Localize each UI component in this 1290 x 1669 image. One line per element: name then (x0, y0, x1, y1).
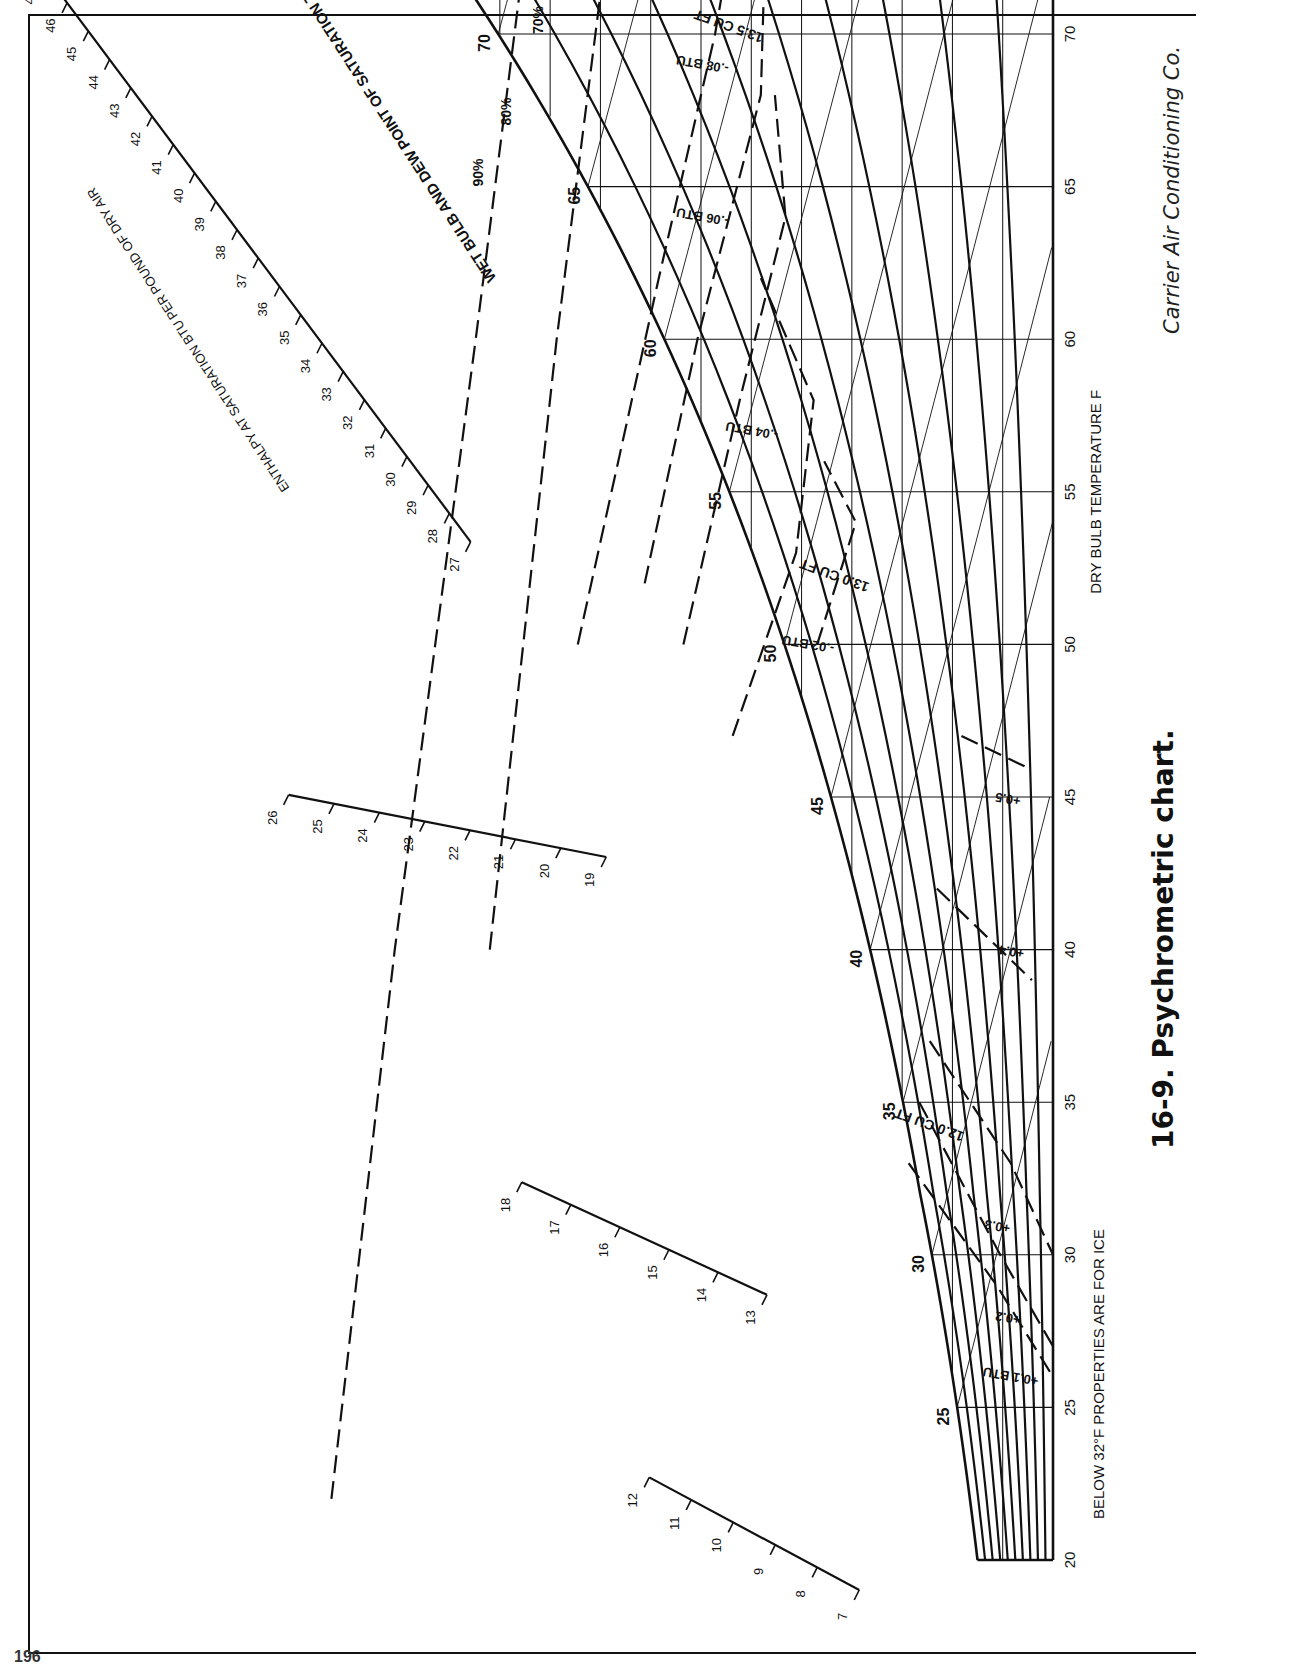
saturation-axis-label: WET BULB AND DEW POINT OF SATURATION TEM… (236, 0, 499, 286)
wet-bulb-line (588, 0, 950, 187)
enthalpy-scale-tick (126, 88, 131, 98)
enthalpy-scale-tick (713, 1272, 718, 1282)
enthalpy-deviation-label: +0.1 BTU (982, 1364, 1040, 1388)
enthalpy-scale-tick (338, 372, 343, 382)
enthalpy-deviation-curve (817, 461, 856, 644)
wet-bulb-line (831, 0, 1052, 797)
enthalpy-scale-label: 12 (625, 1493, 640, 1507)
page-number: 196 (14, 1648, 41, 1666)
saturation-temp-label: 55 (707, 492, 724, 510)
enthalpy-scale-tick (601, 857, 606, 867)
enthalpy-scale-label: 8 (793, 1590, 808, 1597)
dry-bulb-tick-label: 50 (1061, 636, 1078, 653)
wet-bulb-line (664, 0, 1047, 339)
enthalpy-deviation-curve (683, 95, 785, 644)
dry-bulb-tick-label: 25 (1061, 1399, 1078, 1416)
enthalpy-scale-label: 19 (582, 873, 597, 887)
enthalpy-scale-label: 20 (537, 864, 552, 878)
enthalpy-scale-label: 16 (596, 1243, 611, 1257)
enthalpy-scale-tick (105, 60, 110, 70)
enthalpy-scale-label: 36 (255, 302, 270, 316)
enthalpy-deviation-curve (961, 736, 1024, 767)
enthalpy-scale-label: 45 (64, 47, 79, 61)
rh-label: 70% (530, 5, 546, 34)
enthalpy-scale-label: 23 (401, 837, 416, 851)
enthalpy-scale-tick (232, 230, 237, 240)
chart-axes (0, 0, 1053, 1600)
dry-bulb-tick-label: 65 (1061, 178, 1078, 195)
saturation-temp-label: 65 (566, 187, 583, 205)
enthalpy-scale-label: 39 (192, 217, 207, 231)
dry-bulb-tick-label: 40 (1061, 941, 1078, 958)
enthalpy-scale (3, 0, 470, 542)
enthalpy-scale-label: 27 (447, 557, 462, 571)
enthalpy-scale-tick (686, 1500, 691, 1510)
enthalpy-deviation-label: +0.3 (983, 1217, 1011, 1236)
specific-volume-label: 12.0 CU FT (892, 1105, 966, 1145)
rh-curve (141, 0, 1007, 1560)
enthalpy-scale-label: 9 (751, 1568, 766, 1575)
enthalpy-scale-tick (62, 3, 67, 13)
enthalpy-scale-label: 42 (128, 132, 143, 146)
enthalpy-scale-label: 18 (498, 1198, 513, 1212)
enthalpy-scale-label: 10 (709, 1538, 724, 1552)
enthalpy-scale-label: 26 (265, 810, 280, 824)
enthalpy-scale-label: 15 (645, 1265, 660, 1279)
enthalpy-scale-tick (329, 804, 334, 814)
dry-bulb-tick-label: 45 (1061, 789, 1078, 806)
enthalpy-scale-tick (762, 1295, 767, 1305)
enthalpy-deviation-label: -.06 BTU (675, 205, 730, 229)
enthalpy-scale-label: 31 (362, 444, 377, 458)
dry-bulb-tick-label: 20 (1061, 1552, 1078, 1569)
rotated-chart-container: 2025303540455055606570758085909510010511… (0, 0, 1290, 1669)
rh-curve (159, 0, 993, 1560)
enthalpy-scale-tick (168, 145, 173, 155)
enthalpy-scale-tick (854, 1590, 859, 1600)
enthalpy-scale-label: 7 (835, 1613, 850, 1620)
enthalpy-scale-label: 40 (171, 189, 186, 203)
enthalpy-scale-label: 41 (149, 160, 164, 174)
enthalpy-scale-tick (510, 839, 515, 849)
enthalpy-scale-label: 29 (404, 501, 419, 515)
enthalpy-deviation-curve (937, 889, 1032, 981)
enthalpy-scale-tick (317, 343, 322, 353)
rh-label: 90% (470, 158, 486, 187)
enthalpy-scale-tick (465, 830, 470, 840)
rh-curve (467, 0, 1030, 1560)
saturation-temp-label: 50 (762, 645, 779, 663)
enthalpy-scale-tick (253, 258, 258, 268)
enthalpy-deviation-curve (490, 0, 705, 950)
enthalpy-scale-tick (359, 400, 364, 410)
rh-curve (166, 0, 985, 1560)
chart-grid (138, 0, 1053, 1560)
saturation-temp-label: 45 (809, 797, 826, 815)
enthalpy-scale-tick (374, 813, 379, 823)
saturation-temp-label: 60 (642, 339, 659, 357)
specific-volume-label: 13.5 CU FT (692, 6, 766, 46)
enthalpy-scale-label: 32 (340, 416, 355, 430)
enthalpy-scale-label: 35 (277, 330, 292, 344)
enthalpy-scale-tick (423, 485, 428, 495)
chart-curves (139, 0, 1053, 1560)
chart-labels: 2025303540455055606570758085909510010511… (0, 0, 1104, 1620)
enthalpy-scale-label: 38 (213, 245, 228, 259)
enthalpy-scale-tick (420, 822, 425, 832)
enthalpy-scale-tick (615, 1227, 620, 1237)
saturation-temp-label: 25 (935, 1408, 952, 1426)
enthalpy-scale-tick (83, 31, 88, 41)
enthalpy-scale-label: 24 (355, 828, 370, 842)
enthalpy-scale-tick (211, 201, 216, 211)
saturation-temp-label: 40 (848, 950, 865, 968)
rh-label: 80% (498, 97, 514, 126)
enthalpy-scale-tick (147, 116, 152, 126)
enthalpy-scale-label: 14 (694, 1288, 709, 1302)
enthalpy-scale-tick (466, 542, 471, 552)
figure-caption: 16-9. Psychrometric chart. (1147, 729, 1180, 1149)
enthalpy-scale-label: 43 (107, 103, 122, 117)
dry-bulb-tick-label: 30 (1061, 1246, 1078, 1263)
enthalpy-scale-label: 22 (446, 846, 461, 860)
rh-curve (146, 0, 1016, 1560)
enthalpy-scale-label: 30 (383, 472, 398, 486)
enthalpy-scale-label: 25 (310, 819, 325, 833)
enthalpy-deviation-label: +0.5 (994, 790, 1022, 809)
